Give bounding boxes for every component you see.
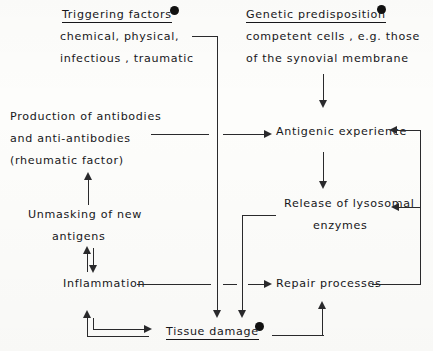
node-unmasking-line1: Unmasking of new xyxy=(28,208,142,221)
connector-tissue-to-repair-vertical xyxy=(322,306,323,336)
connector-antibodies-horizontal-left xyxy=(151,134,209,135)
connector-genetic-vertical xyxy=(323,74,324,102)
node-tissue-damage: Tissue damage xyxy=(166,325,259,340)
connector-tissue-loop-horizontal-outer xyxy=(87,336,149,337)
arrowhead-lysosomal-to-tissue-damage xyxy=(238,310,246,318)
arrowhead-feedback-to-antigenic-experience xyxy=(389,126,397,134)
arrowhead-antigenic-to-lysosomal xyxy=(319,181,327,189)
node-triggering-factors-line2: chemical, physical, xyxy=(60,30,179,43)
bullet-dot-icon-triggering-factors xyxy=(170,6,179,15)
bullet-dot-icon-tissue-damage xyxy=(255,322,264,331)
arrowhead-genetic-to-antigenic-experience xyxy=(319,100,327,108)
connector-tissue-to-repair-horizontal xyxy=(272,335,324,336)
connector-tissue-loop-vertical-outer xyxy=(87,315,88,337)
diagram-canvas: Triggering factors chemical, physical, i… xyxy=(0,0,433,351)
connector-triggering-elbow-horizontal xyxy=(192,36,218,37)
connector-repair-feedback-to-antigenic-horizontal xyxy=(396,130,421,131)
arrowhead-unmasking-to-antibodies xyxy=(84,172,92,180)
arrowhead-triggering-to-tissue-damage xyxy=(213,310,221,318)
arrowhead-feedback-to-lysosomal xyxy=(391,203,399,211)
connector-triggering-elbow-vertical xyxy=(217,36,218,314)
node-release-of-lysosomal-line2: enzymes xyxy=(313,219,368,232)
node-genetic-predisposition-heading: Genetic predisposition xyxy=(246,8,386,23)
node-triggering-factors-line3: infectious , traumatic xyxy=(60,52,194,65)
arrowhead-antibodies-to-antigenic-experience xyxy=(264,130,272,138)
arrowhead-inflammation-to-repair-processes xyxy=(264,280,272,288)
node-inflammation: Inflammation xyxy=(63,277,145,290)
arrowhead-tissue-damage-to-repair-processes xyxy=(318,301,326,309)
node-triggering-factors-heading: Triggering factors xyxy=(62,8,172,23)
connector-lysosomal-elbow-vertical xyxy=(242,215,243,314)
connector-tissue-loop-horizontal-inner xyxy=(93,329,146,330)
bullet-dot-icon-genetic-predisposition xyxy=(377,5,386,14)
connector-inflammation-horizontal-seg1 xyxy=(137,284,211,285)
arrowhead-equilibrium-down xyxy=(89,265,97,273)
node-repair-processes: Repair processes xyxy=(276,277,381,290)
connector-repair-feedback-to-lysosomal-horizontal xyxy=(398,207,421,208)
connector-inflammation-horizontal-seg2 xyxy=(223,284,237,285)
connector-inflammation-horizontal-seg3 xyxy=(248,284,265,285)
connector-unmasking-to-antibodies-vertical xyxy=(88,177,89,205)
connector-repair-feedback-horizontal xyxy=(372,284,421,285)
node-genetic-predisposition-line2: competent cells , e.g. those xyxy=(246,30,420,43)
connector-antibodies-horizontal-right xyxy=(223,134,265,135)
node-unmasking-line2: antigens xyxy=(52,230,106,243)
node-production-of-antibodies-line1: Production of antibodies xyxy=(10,110,161,123)
arrowhead-equilibrium-up xyxy=(83,246,91,254)
node-production-of-antibodies-line2: and anti-antibodies xyxy=(10,132,131,145)
node-antigenic-experience: Antigenic experience xyxy=(276,125,407,138)
arrowhead-tissue-loop-up xyxy=(83,310,91,318)
arrowhead-tissue-loop-right xyxy=(144,325,152,333)
node-genetic-predisposition-line3: of the synovial membrane xyxy=(246,52,409,65)
connector-lysosomal-elbow-horizontal xyxy=(242,215,276,216)
connector-antigenic-to-lysosomal-vertical xyxy=(323,152,324,184)
node-production-of-antibodies-line3: (rheumatic factor) xyxy=(10,154,124,167)
